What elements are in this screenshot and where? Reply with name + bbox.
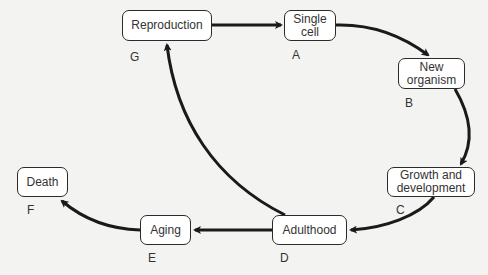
node-death-text: Death [26, 176, 58, 189]
arrow-single-cell-to-new-organism [336, 25, 428, 55]
letter-e: E [148, 251, 156, 265]
letter-d: D [280, 251, 289, 265]
node-adulthood: Adulthood [272, 215, 347, 245]
letter-g: G [130, 50, 139, 64]
letter-f: F [27, 203, 34, 217]
letter-b: B [405, 96, 413, 110]
node-reproduction: Reproduction [122, 10, 212, 41]
node-growth-text: Growth and development [397, 169, 466, 195]
node-death: Death [17, 167, 68, 197]
node-new-organism-text: New organism [407, 61, 456, 87]
node-new-organism: New organism [398, 58, 465, 89]
node-growth-and-development: Growth and development [387, 167, 475, 197]
arrow-new-organism-to-growth [455, 89, 469, 164]
letter-c: C [396, 203, 405, 217]
node-reproduction-text: Reproduction [131, 19, 202, 32]
node-adulthood-text: Adulthood [282, 224, 336, 237]
life-cycle-diagram: Reproduction G Single cell A New organis… [0, 0, 488, 275]
letter-a: A [292, 48, 300, 62]
arrow-adulthood-to-reproduction [167, 45, 285, 215]
node-single-cell: Single cell [284, 10, 336, 41]
arrows-layer [0, 0, 488, 275]
node-aging-text: Aging [150, 224, 181, 237]
node-single-cell-text: Single cell [293, 13, 326, 39]
arrow-growth-to-adulthood [351, 197, 434, 230]
arrow-aging-to-death [62, 201, 140, 230]
node-aging: Aging [140, 215, 191, 245]
